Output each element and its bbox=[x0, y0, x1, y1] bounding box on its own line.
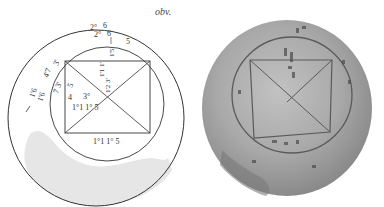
label-center-vertical-2: 1'2 3' bbox=[104, 78, 112, 93]
label-bottom: 1°1 1° 5 bbox=[93, 137, 119, 146]
label-top-inner-15: 1'5 bbox=[108, 48, 116, 57]
label-left-outer-3: 4'7 bbox=[41, 67, 53, 79]
tablet-drawing: 2° 6 2° 6 5 1'5 1'1 1' 1'2 3' 1'6 1'6 4'… bbox=[0, 0, 192, 207]
label-left-mid: 4 bbox=[68, 93, 72, 102]
label-center-vertical-1: 1'1 1' bbox=[98, 62, 106, 77]
label-mid-3: 3° bbox=[83, 92, 90, 101]
label-left-inner-1: 7 3' bbox=[51, 80, 64, 94]
label-top-inner-5: 5 bbox=[126, 37, 130, 46]
label-top-outer-2b: 6 bbox=[107, 29, 111, 38]
label-inside-lower: 1°1 1° 5 bbox=[72, 103, 98, 112]
label-top-outer-2: 2° bbox=[94, 30, 101, 39]
label-left-inner-2: 5 bbox=[65, 82, 75, 89]
tick-left bbox=[26, 106, 30, 112]
label-left-outer-4: 3' bbox=[51, 58, 62, 67]
side-label: obv. bbox=[155, 6, 171, 17]
line-drawing-panel: 2° 6 2° 6 5 1'5 1'1 1' 1'2 3' 1'6 1'6 4'… bbox=[0, 0, 192, 207]
label-left-outer-2: 1'6 bbox=[35, 91, 47, 103]
tablet-photo bbox=[192, 0, 384, 207]
tablet-photo-panel bbox=[192, 0, 384, 207]
